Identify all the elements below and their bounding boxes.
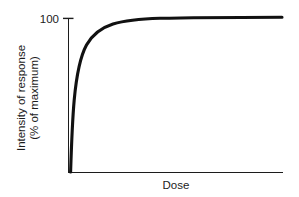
y-axis-title: Intensity of response (% of maximum): [15, 45, 40, 151]
dose-response-curve: [71, 17, 282, 172]
y-axis-title-line1: Intensity of response: [15, 45, 27, 151]
dose-response-chart: 100 Dose Intensity of response (% of max…: [0, 0, 299, 197]
chart-canvas: 100 Dose Intensity of response (% of max…: [0, 0, 299, 197]
x-axis-title: Dose: [163, 179, 190, 191]
y-axis-title-line2: (% of maximum): [28, 56, 40, 140]
y-axis-tick-label-100: 100: [40, 13, 59, 25]
